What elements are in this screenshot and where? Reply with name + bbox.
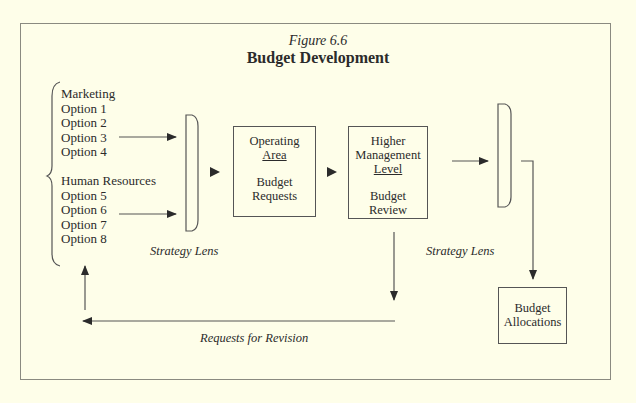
strategy-lens-1: [186, 115, 198, 231]
arrow-lens1-to-operating: [210, 167, 220, 177]
arrow-operating-to-higher: [327, 167, 337, 177]
strategy-lens-2: [498, 104, 511, 207]
diagram-connectors: [0, 0, 636, 403]
connector-lens2-to-allocations: [521, 161, 533, 279]
brace-icon: [47, 82, 60, 266]
